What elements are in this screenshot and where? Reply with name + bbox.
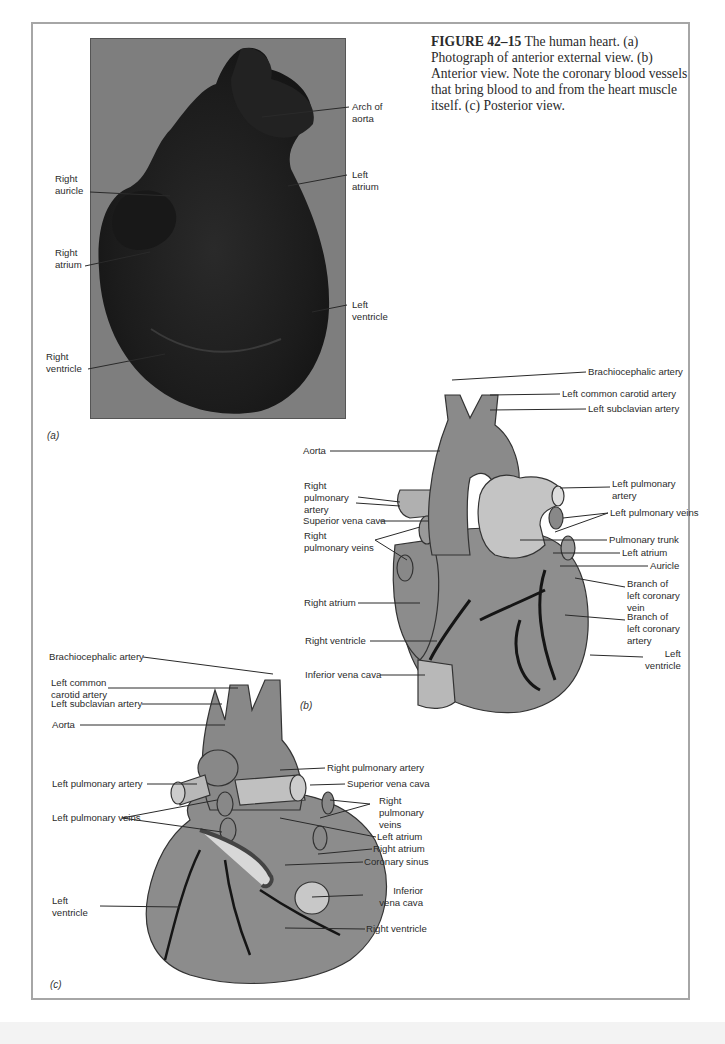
label-b-right-atrium: Right atrium: [304, 597, 356, 609]
c-inferior-vena-cava: [295, 882, 329, 914]
label-b-right-pulmonary-veins: Right pulmonary veins: [304, 530, 374, 554]
label-c-left-subclavian-artery: Left subclavian artery: [51, 698, 142, 710]
b-left-pulm-vein-1: [549, 507, 563, 529]
label-b-left-pulmonary-artery: Left pulmonary artery: [612, 478, 675, 502]
label-b-left-pulmonary-veins: Left pulmonary veins: [610, 507, 699, 519]
label-b-left-atrium: Left atrium: [622, 547, 667, 559]
label-c-left-atrium: Left atrium: [377, 831, 422, 843]
c-right-pulm-vein-1: [322, 792, 334, 814]
label-b-pulmonary-trunk: Pulmonary trunk: [609, 534, 679, 546]
label-c-left-ventricle: Left ventricle: [52, 895, 88, 919]
label-b-branch-left-coronary-vein: Branch of left coronary vein: [627, 578, 680, 614]
label-c-right-pulmonary-artery: Right pulmonary artery: [327, 762, 424, 774]
label-b-left-common-carotid-artery: Left common carotid artery: [562, 388, 676, 400]
label-a-right-auricle: Right auricle: [55, 173, 83, 197]
label-b-left-subclavian-artery: Left subclavian artery: [588, 403, 679, 415]
label-b-auricle: Auricle: [650, 560, 679, 572]
c-right-pulm-vein-2: [313, 826, 327, 850]
label-a-right-ventricle: Right ventricle: [46, 351, 82, 375]
label-b-brachiocephalic-artery: Brachiocephalic artery: [588, 366, 683, 378]
label-a-right-atrium: Right atrium: [55, 247, 82, 271]
label-a-left-atrium: Left atrium: [352, 169, 379, 193]
label-c-inferior-vena-cava: Inferior vena cava: [358, 885, 423, 909]
label-c-coronary-sinus: Coronary sinus: [364, 856, 429, 868]
label-b-superior-vena-cava: Superior vena cava: [303, 515, 386, 527]
b-inferior-vena-cava: [418, 660, 455, 708]
c-left-pulm-vein-1: [217, 792, 233, 816]
b-left-pulm-artery-end: [552, 486, 564, 506]
label-b-inferior-vena-cava: Inferior vena cava: [305, 669, 381, 681]
sublabel-b: (b): [300, 700, 312, 711]
label-b-right-ventricle: Right ventricle: [305, 635, 366, 647]
sublabel-a: (a): [47, 430, 59, 441]
label-b-right-pulmonary-artery: Right pulmonary artery: [304, 480, 349, 516]
label-c-left-pulmonary-artery: Left pulmonary artery: [52, 778, 143, 790]
label-b-branch-left-coronary-artery: Branch of left coronary artery: [627, 611, 680, 647]
leader-lines-a: [85, 107, 349, 369]
label-c-brachiocephalic-artery: Brachiocephalic artery: [49, 651, 144, 663]
label-b-aorta: Aorta: [303, 445, 326, 457]
c-left-pulm-artery-end: [171, 782, 185, 804]
label-b-left-ventricle: Left ventricle: [645, 648, 681, 672]
label-c-aorta: Aorta: [52, 719, 75, 731]
sublabel-c: (c): [50, 979, 62, 990]
label-c-right-atrium: Right atrium: [373, 843, 425, 855]
label-c-right-ventricle: Right ventricle: [366, 923, 427, 935]
label-a-left-ventricle: Left ventricle: [352, 299, 388, 323]
label-a-arch-of-aorta: Arch of aorta: [352, 101, 382, 125]
label-c-left-pulmonary-veins: Left pulmonary veins: [52, 812, 141, 824]
anterior-heart-diagram: [393, 395, 588, 713]
label-c-superior-vena-cava: Superior vena cava: [347, 778, 430, 790]
c-right-pulm-artery-end: [290, 775, 306, 801]
label-c-right-pulmonary-veins: Right pulmonary veins: [379, 795, 424, 831]
